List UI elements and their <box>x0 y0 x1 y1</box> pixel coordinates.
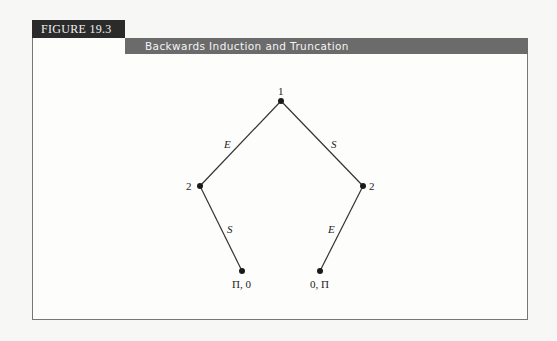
node-right <box>360 183 366 189</box>
edge-right-terminal <box>320 186 363 271</box>
payoff-right: 0, Π <box>310 278 329 290</box>
action-label-S-left: S <box>227 223 233 235</box>
payoff-left: Π, 0 <box>232 278 251 290</box>
edge-root-left <box>200 101 281 186</box>
node-left-terminal <box>239 268 245 274</box>
player-label-root: 1 <box>278 85 284 97</box>
action-label-E-right: E <box>327 223 335 235</box>
player-label-right: 2 <box>369 180 375 192</box>
node-root <box>278 98 284 104</box>
action-label-E-root: E <box>223 138 231 150</box>
game-tree: 1 2 2 E S S E Π, 0 0, Π <box>0 0 557 341</box>
edge-root-right <box>281 101 363 186</box>
action-label-S-root: S <box>331 138 337 150</box>
node-right-terminal <box>317 268 323 274</box>
node-left <box>197 183 203 189</box>
player-label-left: 2 <box>186 180 192 192</box>
edge-left-terminal <box>200 186 242 271</box>
